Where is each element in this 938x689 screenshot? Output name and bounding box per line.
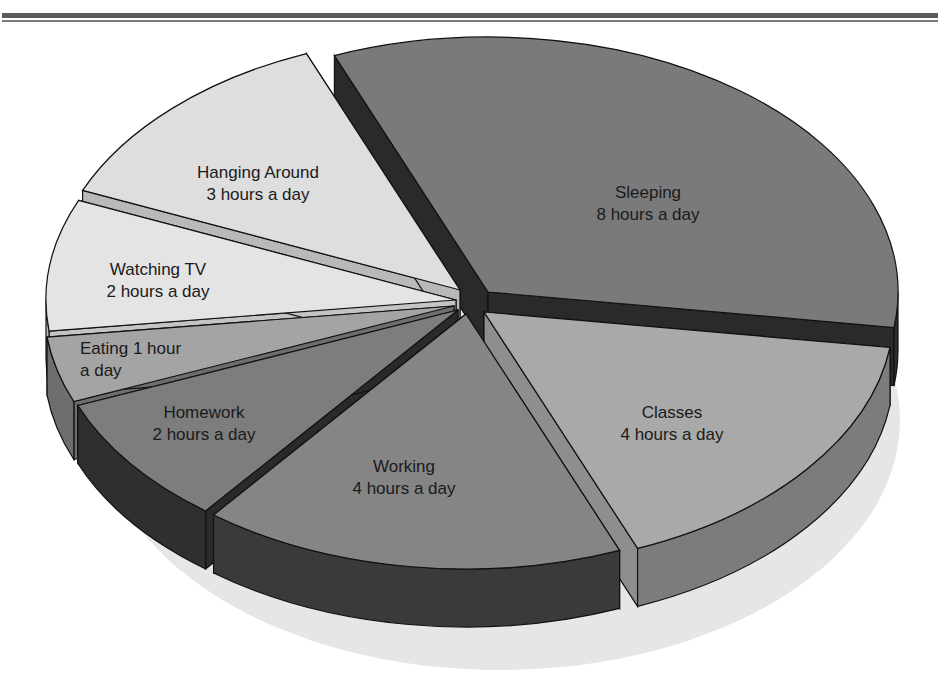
label-working-value: 4 hours a day <box>352 479 456 498</box>
label-sleeping-title: Sleeping <box>615 183 681 202</box>
label-hanging-around-title: Hanging Around <box>197 163 319 182</box>
label-eating-value: a day <box>80 361 122 380</box>
label-hanging-around-value: 3 hours a day <box>206 185 310 204</box>
label-working-title: Working <box>373 457 435 476</box>
label-watching-tv-title: Watching TV <box>110 260 207 279</box>
label-homework-title: Homework <box>163 403 245 422</box>
label-homework-value: 2 hours a day <box>152 425 256 444</box>
label-classes-title: Classes <box>642 403 702 422</box>
pie-chart: Sleeping8 hours a dayClasses4 hours a da… <box>0 0 938 689</box>
label-watching-tv-value: 2 hours a day <box>106 282 210 301</box>
label-eating-title: Eating 1 hour <box>80 339 181 358</box>
label-sleeping-value: 8 hours a day <box>596 205 700 224</box>
label-classes-value: 4 hours a day <box>620 425 724 444</box>
